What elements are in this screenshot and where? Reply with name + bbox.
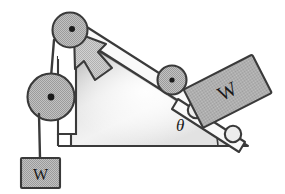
hanging-weight-label: W <box>33 166 49 183</box>
lower-pulley <box>28 74 75 121</box>
physics-diagram-figure: θ W <box>0 0 285 194</box>
diagram-canvas: θ W <box>0 0 285 194</box>
lower-pulley-hub-dot <box>48 94 55 101</box>
notch-top-clear <box>58 47 76 59</box>
hanging-weight-block: W <box>21 158 60 188</box>
cart-wheel-lower <box>225 126 241 142</box>
rope-upper-segment <box>51 40 54 77</box>
idler-pulley <box>158 66 187 95</box>
rope-lower-segment <box>39 114 40 158</box>
angle-label-theta: θ <box>176 116 184 135</box>
top-pulley-hub-dot <box>69 26 75 32</box>
idler-pulley-hub-dot <box>169 77 174 82</box>
top-pulley <box>53 13 88 48</box>
cart-body: W <box>184 55 272 128</box>
